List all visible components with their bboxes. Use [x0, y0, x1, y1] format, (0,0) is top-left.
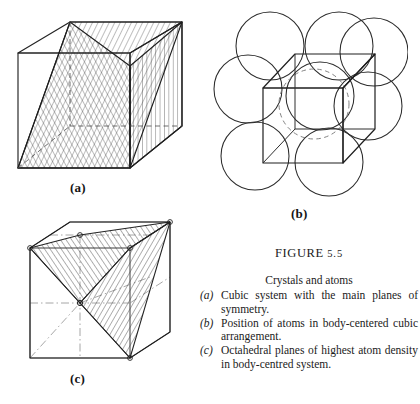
- figure-item-marker: (a): [200, 289, 213, 303]
- atom-circle-back-top-right: [305, 12, 373, 80]
- figure-item-text: Cubic system with the main planes of sym…: [221, 289, 418, 316]
- cube-hidden-back-left: [263, 129, 295, 163]
- atom-circle-back-top-left: [236, 12, 304, 80]
- panel-c-drawing: [12, 218, 192, 370]
- figure-item-marker: (b): [200, 317, 213, 331]
- figure-item-text: Octahedral planes of highest atom densit…: [221, 344, 418, 371]
- atom-circle-front-top-left: [214, 55, 282, 123]
- panel-a-label: (a): [70, 181, 86, 194]
- panel-a-cubic-system-planes-of-symmetry: [10, 8, 190, 178]
- atom-circle-front-bot-right: [295, 128, 363, 196]
- figure-item: (b) Position of atoms in body-centered c…: [200, 317, 418, 344]
- atom-circle-back-bot-left: [286, 62, 354, 130]
- figure-title: Crystals and atoms: [200, 274, 418, 286]
- figure-page: (a): [0, 0, 420, 404]
- figure-word: Figure: [275, 246, 324, 260]
- atom-circle-front-bot-left: [221, 122, 289, 190]
- figure-item: (a) Cubic system with the main planes of…: [200, 289, 418, 316]
- cube-right-face: [343, 54, 375, 163]
- panel-a-drawing: [10, 8, 190, 178]
- atom-circle-back-bot-right: [340, 18, 408, 86]
- panel-b-body-centered-atom-positions: [208, 10, 408, 202]
- figure-number-heading: Figure 5.5: [200, 246, 418, 261]
- panel-b-label: (b): [291, 207, 308, 220]
- figure-item-list: (a) Cubic system with the main planes of…: [200, 289, 418, 372]
- atom-circle-front-top-right: [334, 72, 402, 140]
- figure-number: 5.5: [327, 248, 343, 259]
- panel-c-octahedral-planes: [12, 218, 192, 370]
- figure-item: (c) Octahedral planes of highest atom de…: [200, 344, 418, 371]
- panel-b-drawing: [208, 10, 408, 202]
- figure-item-text: Position of atoms in body-centered cubic…: [221, 317, 418, 344]
- panel-c-label: (c): [70, 372, 85, 385]
- figure-caption: Figure 5.5 Crystals and atoms (a) Cubic …: [200, 246, 418, 372]
- figure-item-marker: (c): [200, 344, 213, 358]
